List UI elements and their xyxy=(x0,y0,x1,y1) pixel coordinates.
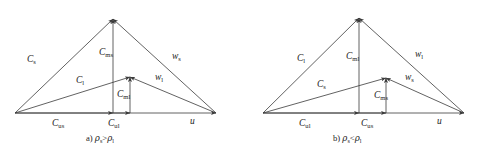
panel-a-label-inner-vertical: Cml xyxy=(117,90,131,100)
panel-a-label-baseline-1: Cus xyxy=(52,119,64,129)
panel-b-label-inner-vertical: Cms xyxy=(374,91,388,101)
panel-a-label-outer-left-leg: Cs xyxy=(27,55,36,65)
panel-a: Cs Cms ws Cl Cml wl Cus Cul u a) ρs>ρl xyxy=(0,0,248,153)
panel-b-caption: b) ρs<ρl xyxy=(333,134,361,143)
panel-a-label-inner-right-leg: wl xyxy=(155,73,163,83)
panel-b-label-outer-vertical: Cml xyxy=(346,52,360,62)
panel-b-label-inner-left-leg: Cs xyxy=(317,80,326,90)
panel-b-label-outer-right-leg: wl xyxy=(415,50,423,60)
panel-a-label-baseline-2: Cul xyxy=(108,119,120,129)
panel-a-caption: a) ρs>ρl xyxy=(86,134,114,143)
panel-b: Cl Cml wl Cs Cms ws Cul Cus u b) ρs<ρl xyxy=(249,0,497,153)
panel-a-outer-left-leg xyxy=(15,19,113,113)
panel-b-outer-left-leg xyxy=(263,18,359,113)
panel-a-label-baseline-3: u xyxy=(190,117,195,127)
panel-b-label-inner-right-leg: ws xyxy=(405,73,414,83)
panel-a-vector-diagram xyxy=(0,0,248,153)
panel-a-label-inner-left-leg: Cl xyxy=(76,76,84,86)
panel-b-label-outer-left-leg: Cl xyxy=(297,54,305,64)
panel-b-inner-right-leg xyxy=(386,78,464,113)
panel-b-label-baseline-3: u xyxy=(437,117,442,127)
figure-root: Cs Cms ws Cl Cml wl Cus Cul u a) ρs>ρl xyxy=(0,0,497,153)
panel-b-vector-diagram xyxy=(249,0,497,153)
panel-a-label-outer-vertical: Cms xyxy=(99,48,113,58)
panel-b-label-baseline-1: Cul xyxy=(299,119,311,129)
panel-a-label-outer-right-leg: ws xyxy=(172,52,181,62)
panel-b-label-baseline-2: Cus xyxy=(361,119,373,129)
panel-a-inner-right-leg xyxy=(130,77,216,113)
